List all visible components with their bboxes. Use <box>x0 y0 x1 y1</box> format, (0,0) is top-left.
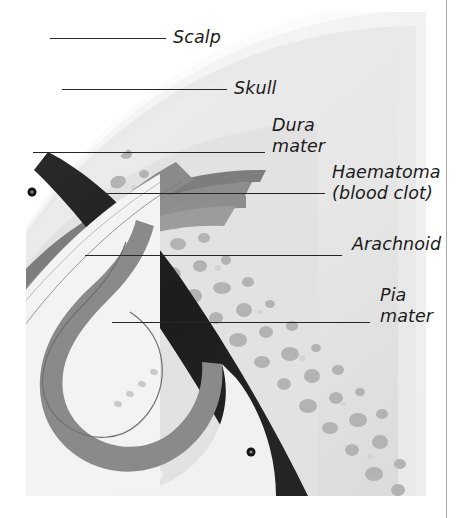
anatomy-illustration <box>26 12 426 496</box>
diagram-page: Scalp Skull Dura mater Haematoma (blood … <box>0 0 458 518</box>
page-frame-rule <box>446 0 447 518</box>
anatomy-svg <box>26 12 426 496</box>
